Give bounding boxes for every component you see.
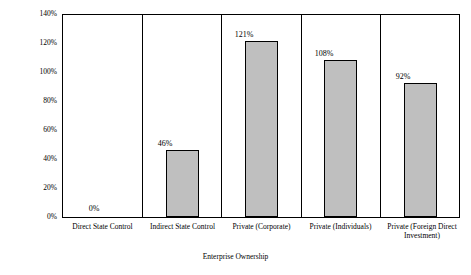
y-tick-label: 20% bbox=[17, 184, 57, 192]
bar-value-label: 108% bbox=[293, 49, 355, 58]
x-category-label: Private (Foreign Direct Investment) bbox=[376, 222, 468, 240]
y-tick-label: 0% bbox=[17, 213, 57, 221]
bar-value-label: 121% bbox=[213, 30, 275, 39]
y-tick-label: 120% bbox=[17, 39, 57, 47]
bar-private-fdi bbox=[404, 83, 437, 217]
x-category-label: Private (Corporate) bbox=[219, 222, 304, 231]
category-separator bbox=[221, 15, 222, 217]
bar-private-corporate bbox=[245, 41, 278, 217]
x-axis-title: Enterprise Ownership bbox=[0, 252, 471, 261]
bar-indirect-state-control bbox=[166, 150, 199, 217]
y-tick-label: 140% bbox=[17, 10, 57, 18]
category-separator bbox=[380, 15, 381, 217]
bar-value-label: 46% bbox=[134, 139, 196, 148]
y-tick-label: 80% bbox=[17, 97, 57, 105]
category-separator bbox=[301, 15, 302, 217]
x-category-label-line: Investment) bbox=[376, 231, 468, 240]
x-category-label: Direct State Control bbox=[60, 222, 145, 231]
bar-chart: TFP Relative to TFP of SOEs 0% 20% 40% 6… bbox=[0, 0, 471, 275]
y-tick-label: 40% bbox=[17, 155, 57, 163]
bar-private-individuals bbox=[324, 60, 357, 217]
x-category-label: Indirect State Control bbox=[140, 222, 225, 231]
y-tick-label: 100% bbox=[17, 68, 57, 76]
category-separator bbox=[142, 15, 143, 217]
plot-area bbox=[62, 14, 460, 218]
bar-value-label: 92% bbox=[372, 72, 434, 81]
y-tick-label: 60% bbox=[17, 126, 57, 134]
x-category-label: Private (Individuals) bbox=[298, 222, 383, 231]
x-category-label-line: Private (Foreign Direct bbox=[376, 222, 468, 231]
bar-value-label: 0% bbox=[63, 204, 125, 213]
